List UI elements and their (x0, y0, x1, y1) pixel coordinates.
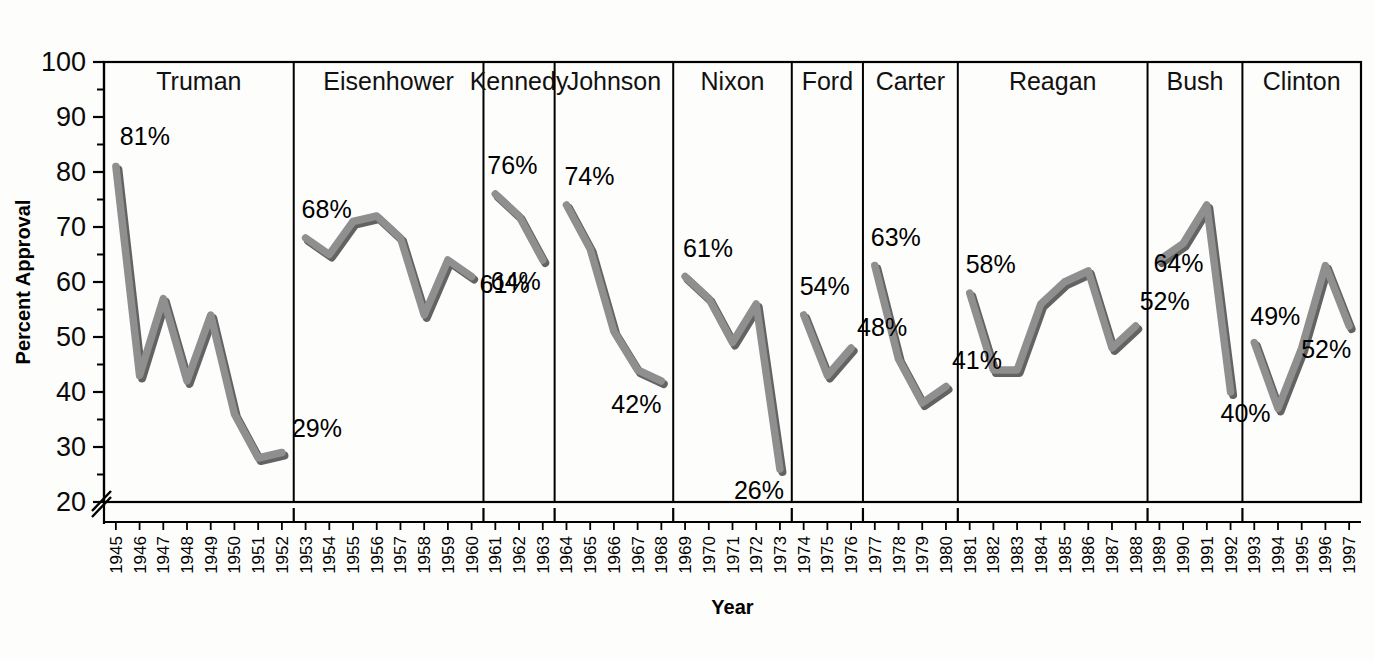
x-tick-label-1979: 1979 (913, 536, 932, 574)
y-tick-label-60: 60 (56, 267, 86, 297)
x-tick-label-1993: 1993 (1245, 536, 1264, 574)
x-tick-label-1960: 1960 (463, 536, 482, 574)
x-tick-label-1996: 1996 (1316, 536, 1335, 574)
value-annotation: 40% (1221, 399, 1271, 427)
x-tick-label-1985: 1985 (1056, 536, 1075, 574)
x-tick-label-1970: 1970 (700, 536, 719, 574)
x-tick-label-1950: 1950 (225, 536, 244, 574)
x-tick-label-1984: 1984 (1032, 536, 1051, 574)
x-tick-label-1947: 1947 (154, 536, 173, 574)
value-annotation: 58% (966, 250, 1016, 278)
y-tick-label-70: 70 (56, 212, 86, 242)
chart-canvas: TrumanEisenhowerKennedyJohnsonNixonFordC… (0, 0, 1374, 661)
x-tick-label-1988: 1988 (1127, 536, 1146, 574)
panel-title-ford: Ford (802, 67, 853, 95)
panel-title-carter: Carter (876, 67, 945, 95)
panel-title-eisenhower: Eisenhower (323, 67, 454, 95)
value-annotation: 49% (1250, 302, 1300, 330)
panel-title-nixon: Nixon (701, 67, 765, 95)
x-tick-label-1954: 1954 (320, 536, 339, 574)
x-tick-label-1945: 1945 (107, 536, 126, 574)
x-tick-label-1966: 1966 (605, 536, 624, 574)
x-tick-label-1958: 1958 (415, 536, 434, 574)
x-tick-label-1975: 1975 (818, 536, 837, 574)
x-tick-label-1986: 1986 (1079, 536, 1098, 574)
x-tick-label-1956: 1956 (368, 536, 387, 574)
x-tick-label-1976: 1976 (842, 536, 861, 574)
x-tick-label-1980: 1980 (937, 536, 956, 574)
value-annotation: 74% (564, 162, 614, 190)
x-tick-label-1965: 1965 (581, 536, 600, 574)
x-tick-label-1971: 1971 (724, 536, 743, 574)
panel-title-truman: Truman (156, 67, 241, 95)
value-annotation: 26% (734, 476, 784, 504)
x-tick-label-1946: 1946 (131, 536, 150, 574)
x-tick-label-1952: 1952 (273, 536, 292, 574)
x-axis-title: Year (711, 596, 753, 618)
x-tick-label-1981: 1981 (961, 536, 980, 574)
x-tick-label-1957: 1957 (391, 536, 410, 574)
value-annotation: 54% (800, 272, 850, 300)
value-annotation: 52% (1301, 335, 1351, 363)
y-axis-title: Percent Approval (12, 200, 34, 365)
panel-title-clinton: Clinton (1263, 67, 1341, 95)
x-tick-label-1959: 1959 (439, 536, 458, 574)
x-tick-label-1963: 1963 (534, 536, 553, 574)
value-annotation: 64% (1153, 249, 1203, 277)
x-tick-label-1994: 1994 (1269, 536, 1288, 574)
value-annotation: 76% (487, 151, 537, 179)
x-tick-label-1973: 1973 (771, 536, 790, 574)
presidential-approval-chart: TrumanEisenhowerKennedyJohnsonNixonFordC… (0, 0, 1374, 661)
x-tick-label-1983: 1983 (1008, 536, 1027, 574)
x-tick-label-1949: 1949 (202, 536, 221, 574)
x-tick-label-1967: 1967 (629, 536, 648, 574)
x-tick-label-1974: 1974 (795, 536, 814, 574)
y-tick-label-30: 30 (56, 432, 86, 462)
x-tick-label-1990: 1990 (1174, 536, 1193, 574)
y-tick-label-80: 80 (56, 157, 86, 187)
x-tick-label-1982: 1982 (984, 536, 1003, 574)
value-annotation: 42% (611, 390, 661, 418)
x-tick-label-1953: 1953 (297, 536, 316, 574)
x-tick-label-1969: 1969 (676, 536, 695, 574)
panel-title-johnson: Johnson (567, 67, 662, 95)
y-tick-label-40: 40 (56, 377, 86, 407)
value-annotation: 68% (302, 195, 352, 223)
value-annotation: 63% (871, 223, 921, 251)
x-tick-label-1964: 1964 (557, 536, 576, 574)
value-annotation: 64% (491, 267, 541, 295)
panel-title-bush: Bush (1166, 67, 1223, 95)
x-tick-label-1987: 1987 (1103, 536, 1122, 574)
y-tick-label-20: 20 (56, 487, 86, 517)
x-tick-label-1989: 1989 (1150, 536, 1169, 574)
x-tick-label-1992: 1992 (1222, 536, 1241, 574)
x-tick-label-1991: 1991 (1198, 536, 1217, 574)
x-tick-label-1972: 1972 (747, 536, 766, 574)
x-tick-label-1948: 1948 (178, 536, 197, 574)
value-annotation: 81% (120, 122, 170, 150)
x-tick-label-1997: 1997 (1340, 536, 1359, 574)
value-annotation: 29% (292, 414, 342, 442)
value-annotation: 52% (1140, 287, 1190, 315)
value-annotation: 41% (952, 346, 1002, 374)
y-tick-label-90: 90 (56, 102, 86, 132)
y-tick-label-50: 50 (56, 322, 86, 352)
value-annotation: 48% (857, 313, 907, 341)
x-tick-label-1961: 1961 (486, 536, 505, 574)
panel-title-reagan: Reagan (1009, 67, 1097, 95)
x-tick-label-1978: 1978 (890, 536, 909, 574)
x-tick-label-1955: 1955 (344, 536, 363, 574)
y-tick-label-100: 100 (41, 47, 86, 77)
x-tick-label-1968: 1968 (652, 536, 671, 574)
x-tick-label-1995: 1995 (1293, 536, 1312, 574)
x-tick-label-1977: 1977 (866, 536, 885, 574)
x-tick-label-1962: 1962 (510, 536, 529, 574)
value-annotation: 61% (683, 234, 733, 262)
x-tick-label-1951: 1951 (249, 536, 268, 574)
